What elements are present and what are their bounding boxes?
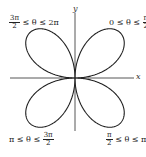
petal-label-lower-left: π ≤ θ ≤ 3π2 xyxy=(9,132,54,147)
petal-label-upper-left: 3π2 ≤ θ ≤ 2π xyxy=(9,15,59,30)
petal-label-lower-right: π2 ≤ θ ≤ π xyxy=(106,132,146,147)
y-axis-label: y xyxy=(73,5,78,13)
petal-label-upper-right: 0 ≤ θ ≤ π2 xyxy=(109,15,146,30)
x-axis-label: x xyxy=(136,73,141,81)
